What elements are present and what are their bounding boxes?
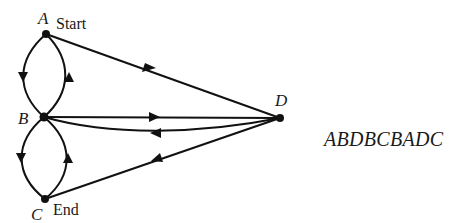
node-a-label: A [37,9,49,28]
arrow-down-icon [18,72,28,82]
edge-b-to-d [44,117,280,118]
edge-a-to-b [23,34,46,117]
edge-b-to-c [22,117,45,199]
edge-b-to-a [44,34,65,117]
arrow-right-icon [149,112,160,122]
node-c-label: C [31,205,43,223]
node-d [276,114,284,122]
start-label: Start [56,15,87,32]
node-d-label: D [274,91,288,110]
arrow-down-icon [16,153,26,163]
graph-diagram: A Start B C End D [0,0,470,223]
arrow-left-icon [150,128,161,138]
edge-a-to-d [46,34,280,118]
node-a [42,30,50,38]
edge-c-to-b [44,117,67,199]
arrow-up-icon [63,153,73,163]
path-sequence: ABDBCBADC [324,128,443,151]
edge-d-to-b [44,117,280,131]
node-b [40,113,49,122]
node-c [41,195,49,203]
end-label: End [53,201,79,218]
arrow-left-icon [151,153,163,162]
node-b-label: B [18,109,29,128]
